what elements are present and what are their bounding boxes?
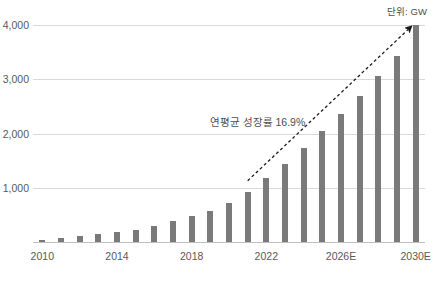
x-axis-tick-label: 2022 bbox=[255, 250, 278, 262]
bar bbox=[301, 148, 307, 242]
chart-container: 단위: GW 1,0002,0003,0004,0002010201420182… bbox=[0, 0, 435, 281]
bar bbox=[263, 178, 269, 242]
y-axis-tick-label: 4,000 bbox=[0, 20, 29, 31]
gridline bbox=[33, 25, 425, 26]
unit-note: 단위: GW bbox=[387, 4, 427, 18]
bar bbox=[58, 238, 64, 242]
bar bbox=[170, 221, 176, 242]
bar bbox=[357, 96, 363, 243]
bar bbox=[114, 232, 120, 242]
bar bbox=[282, 164, 288, 242]
x-axis-line bbox=[33, 242, 425, 243]
y-axis-tick-label: 3,000 bbox=[0, 74, 29, 85]
bar bbox=[189, 216, 195, 242]
bar bbox=[375, 76, 381, 242]
y-axis-tick-label: 2,000 bbox=[0, 129, 29, 140]
bar bbox=[413, 25, 419, 242]
gridline bbox=[33, 134, 425, 135]
gridline bbox=[33, 188, 425, 189]
bar bbox=[151, 226, 157, 242]
x-axis-tick-label: 2014 bbox=[105, 250, 128, 262]
x-axis-tick-label: 2010 bbox=[31, 250, 54, 262]
bar bbox=[319, 131, 325, 242]
bar bbox=[338, 114, 344, 242]
bar bbox=[133, 230, 139, 243]
x-axis-tick-label: 2026E bbox=[326, 250, 356, 262]
bar bbox=[245, 192, 251, 243]
bar bbox=[207, 211, 213, 242]
bar bbox=[394, 56, 400, 242]
x-axis-tick-label: 2030E bbox=[401, 250, 431, 262]
cagr-annotation: 연평균 성장률 16.9% bbox=[210, 114, 306, 129]
bar bbox=[95, 234, 101, 242]
gridline bbox=[33, 79, 425, 80]
plot-area: 1,0002,0003,0004,00020102014201820222026… bbox=[33, 25, 425, 242]
y-axis-tick-label: 1,000 bbox=[0, 183, 29, 194]
bar bbox=[77, 236, 83, 242]
bar bbox=[39, 240, 45, 242]
x-axis-tick-label: 2018 bbox=[180, 250, 203, 262]
bar bbox=[226, 203, 232, 242]
